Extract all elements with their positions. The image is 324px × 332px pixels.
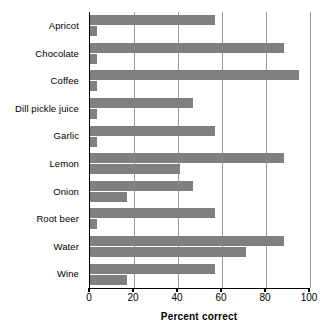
category-label: Coffee — [0, 67, 85, 95]
bar — [90, 98, 193, 108]
x-axis-title: Percent correct — [89, 311, 309, 322]
x-tick-label: 0 — [86, 293, 92, 303]
bar-chart: ApricotChocolateCoffeeDill pickle juiceG… — [0, 0, 324, 332]
category-label: Wine — [0, 260, 85, 288]
bar — [90, 70, 299, 80]
category-label: Onion — [0, 178, 85, 206]
bar — [90, 208, 215, 218]
bar-group — [90, 122, 310, 150]
bar — [90, 26, 97, 36]
bar — [90, 219, 97, 229]
category-label: Water — [0, 233, 85, 261]
bar-group — [90, 95, 310, 123]
bar — [90, 275, 127, 285]
plot-area — [89, 12, 310, 289]
bar — [90, 192, 127, 202]
bar — [90, 264, 215, 274]
bar — [90, 137, 97, 147]
bar — [90, 153, 284, 163]
bar — [90, 54, 97, 64]
bar-group — [90, 150, 310, 178]
bar — [90, 126, 215, 136]
bars-layer — [90, 12, 310, 288]
category-label: Garlic — [0, 122, 85, 150]
bar — [90, 81, 97, 91]
bar — [90, 236, 284, 246]
bar-group — [90, 40, 310, 68]
bar — [90, 43, 284, 53]
bar-group — [90, 260, 310, 288]
bar-group — [90, 205, 310, 233]
bar-group — [90, 233, 310, 261]
bar — [90, 164, 180, 174]
category-label: Apricot — [0, 12, 85, 40]
bar — [90, 15, 215, 25]
category-axis: ApricotChocolateCoffeeDill pickle juiceG… — [0, 12, 85, 288]
gridline — [310, 12, 311, 288]
category-label: Chocolate — [0, 40, 85, 68]
bar-group — [90, 67, 310, 95]
bar — [90, 181, 193, 191]
bar-group — [90, 12, 310, 40]
x-tick-label: 100 — [301, 293, 318, 303]
x-tick-label: 60 — [215, 293, 226, 303]
bar — [90, 247, 246, 257]
x-tick-label: 40 — [171, 293, 182, 303]
bar-group — [90, 178, 310, 206]
x-tick-label: 80 — [259, 293, 270, 303]
category-label: Root beer — [0, 205, 85, 233]
x-tick-label: 20 — [127, 293, 138, 303]
category-label: Dill pickle juice — [0, 95, 85, 123]
bar — [90, 109, 97, 119]
category-label: Lemon — [0, 150, 85, 178]
x-axis: 020406080100 — [89, 288, 309, 310]
